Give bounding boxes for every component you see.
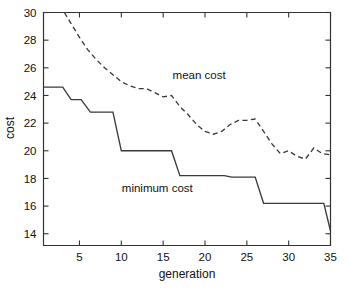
series-minimum-cost xyxy=(44,87,331,231)
y-axis-tick-labels: 141618202224262830 xyxy=(24,7,37,240)
series-annotation-label: minimum cost xyxy=(122,182,194,194)
x-tick-label: 35 xyxy=(324,251,337,263)
y-tick-label: 16 xyxy=(24,200,37,212)
y-tick-label: 14 xyxy=(24,228,37,240)
y-axis-title: cost xyxy=(3,116,17,139)
x-axis-title: generation xyxy=(159,267,216,281)
y-tick-label: 20 xyxy=(24,145,37,157)
y-tick-label: 18 xyxy=(24,173,37,185)
y-axis-ticks xyxy=(44,13,331,234)
y-tick-label: 28 xyxy=(24,34,37,46)
plot-frame xyxy=(44,13,331,246)
x-tick-label: 5 xyxy=(76,251,82,263)
chart-figure: 141618202224262830 5101520253035 mean co… xyxy=(0,0,351,290)
x-axis-tick-labels: 5101520253035 xyxy=(76,251,337,263)
series-mean-cost xyxy=(64,13,330,160)
x-tick-label: 15 xyxy=(157,251,170,263)
cost-vs-generation-chart: 141618202224262830 5101520253035 mean co… xyxy=(0,0,351,290)
y-tick-label: 24 xyxy=(24,90,37,102)
axis-frame xyxy=(44,13,331,246)
y-tick-label: 22 xyxy=(24,117,37,129)
x-tick-label: 10 xyxy=(115,251,128,263)
x-tick-label: 20 xyxy=(199,251,212,263)
x-tick-label: 25 xyxy=(240,251,253,263)
data-series xyxy=(44,13,331,231)
series-annotation-label: mean cost xyxy=(173,69,227,81)
y-tick-label: 30 xyxy=(24,7,37,19)
y-tick-label: 26 xyxy=(24,62,37,74)
x-tick-label: 30 xyxy=(282,251,295,263)
